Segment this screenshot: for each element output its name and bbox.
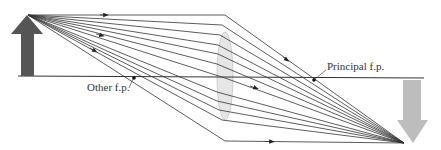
light-rays — [28, 15, 404, 143]
principal-focal-point-label: Principal f.p. — [327, 60, 384, 72]
object-arrow-icon — [11, 15, 43, 76]
lens-ray-diagram — [0, 0, 441, 150]
image-arrow-icon — [397, 80, 428, 143]
other-focal-point-label: Other f.p. — [87, 81, 129, 93]
